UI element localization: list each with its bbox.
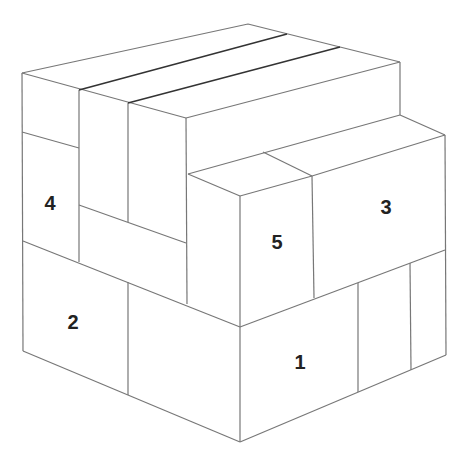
piece-label-3: 3 — [380, 196, 391, 219]
cube-drawing — [0, 0, 459, 456]
piece-label-2: 2 — [67, 311, 78, 334]
puzzle-cube-diagram: 4 3 5 2 1 — [0, 0, 459, 456]
piece-label-5: 5 — [271, 231, 282, 254]
piece-label-1: 1 — [294, 351, 305, 374]
piece-label-4: 4 — [44, 192, 55, 215]
